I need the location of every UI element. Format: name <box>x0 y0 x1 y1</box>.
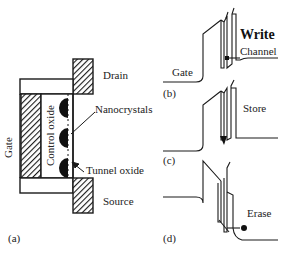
panel-d-label: (d) <box>163 233 176 244</box>
panel-a-label: (a) <box>8 233 20 244</box>
erase-title: Erase <box>247 208 271 219</box>
nanocrystals-leader <box>71 112 95 134</box>
bottom-spacer <box>20 178 73 193</box>
top-spacer <box>20 79 73 94</box>
device-cross-section <box>20 59 93 213</box>
nanocrystals <box>59 98 68 178</box>
write-title: Write <box>240 28 275 42</box>
control-oxide-label: Control oxide <box>45 105 56 166</box>
band-diagram-store <box>163 80 278 151</box>
panel-b-label: (b) <box>163 88 176 99</box>
gate-label-vertical: Gate <box>3 137 14 158</box>
band-diagram-erase <box>163 161 278 240</box>
channel-label: Channel <box>240 46 277 57</box>
store-title: Store <box>243 103 266 114</box>
panel-c-label: (c) <box>163 155 175 166</box>
source-contact <box>73 178 93 213</box>
tunnel-oxide-label: Tunnel oxide <box>86 165 144 176</box>
gate-electrode <box>21 94 41 178</box>
drain-label: Drain <box>103 70 128 81</box>
source-label: Source <box>103 196 134 207</box>
gate-label-band: Gate <box>172 67 193 78</box>
drain-contact <box>73 59 93 94</box>
nanocrystals-label: Nanocrystals <box>95 104 152 115</box>
